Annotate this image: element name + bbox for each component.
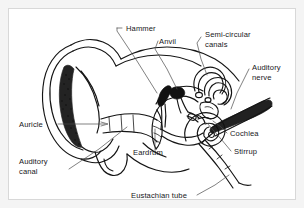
- label-auditory-canal-line2: canal: [19, 167, 38, 176]
- label-auricle: Auricle: [19, 120, 43, 129]
- auditory-canal-drawing: [101, 114, 157, 142]
- label-anvil: Anvil: [159, 37, 176, 46]
- auricle-outer-ear-drawing: [42, 40, 127, 176]
- figure-frame: Hammer Anvil Semi-circular canals Audito…: [8, 8, 296, 200]
- label-auditory-nerve-line2: nerve: [252, 73, 272, 82]
- label-eustachian-tube: Eustachian tube: [131, 191, 187, 200]
- label-auditory-canal-line1: Auditory: [19, 157, 48, 166]
- label-semicircular-canals-line2: canals: [205, 40, 228, 49]
- semicircular-canals-drawing: [194, 67, 232, 119]
- label-eardrum: Eardrum: [133, 148, 163, 157]
- figure-root: Hammer Anvil Semi-circular canals Audito…: [0, 0, 304, 208]
- ear-anatomy-diagram: Hammer Anvil Semi-circular canals Audito…: [9, 9, 296, 200]
- label-cochlea: Cochlea: [230, 129, 259, 138]
- label-hammer: Hammer: [126, 24, 156, 33]
- label-stirrup: Stirrup: [234, 147, 257, 156]
- label-semicircular-canals-line1: Semi-circular: [205, 30, 251, 39]
- label-auditory-nerve-line1: Auditory: [252, 63, 281, 72]
